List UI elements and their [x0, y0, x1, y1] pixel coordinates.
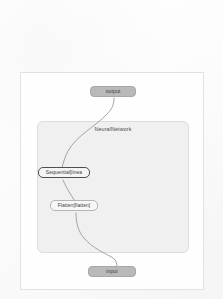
graph-node-sequential[interactable]: Sequential[linea [38, 167, 90, 178]
graph-canvas-card[interactable]: NeuralNetwork [20, 72, 204, 290]
graph-node-output-label: output [106, 89, 121, 94]
edge-sequential-to-flatten [63, 180, 75, 201]
edges-layer [21, 73, 205, 291]
graph-node-flatten-label: Flatten[flatten] [58, 203, 90, 208]
graph-node-input-label: input [106, 269, 118, 274]
edge-output-to-sequential [62, 98, 114, 168]
graph-node-input[interactable]: input [88, 266, 136, 277]
edge-flatten-to-input [76, 213, 117, 267]
graph-node-flatten[interactable]: Flatten[flatten] [50, 200, 98, 211]
graph-node-sequential-label: Sequential[linea [46, 170, 82, 175]
graph-node-output[interactable]: output [90, 86, 136, 97]
